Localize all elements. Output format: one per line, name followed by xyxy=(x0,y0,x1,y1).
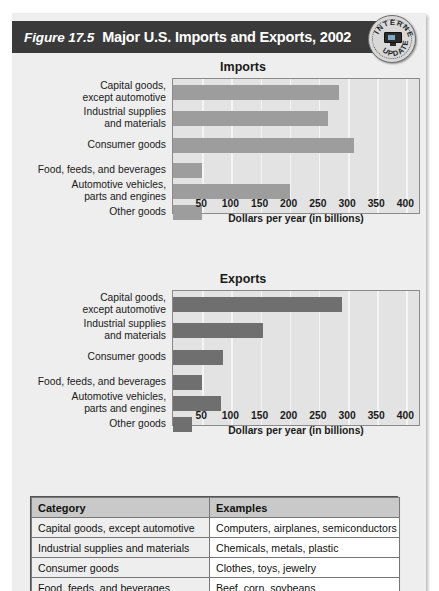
imports-chart: Imports Capital goods, except automotive… xyxy=(12,60,426,260)
table-cell-examples: Beef, corn, soybeans xyxy=(210,578,400,591)
axis-tick: 400 xyxy=(397,410,414,421)
axis-tick: 250 xyxy=(309,410,326,421)
table-cell-category: Consumer goods xyxy=(32,558,210,578)
category-label: Capital goods, except automotive xyxy=(20,80,166,103)
bar xyxy=(173,396,221,411)
category-label: Consumer goods xyxy=(20,351,166,362)
axis-tick: 150 xyxy=(251,410,268,421)
axis-tick: 300 xyxy=(338,198,355,209)
figure-title-bar: Figure 17.5 Major U.S. Imports and Expor… xyxy=(12,21,408,53)
exports-category-labels: Capital goods, except automotiveIndustri… xyxy=(20,290,170,426)
bar xyxy=(173,375,202,390)
figure-number: Figure 17.5 xyxy=(24,30,94,45)
axis-tick: 100 xyxy=(222,198,239,209)
figure-title: Major U.S. Imports and Exports, 2002 xyxy=(102,29,351,45)
gridline xyxy=(348,291,350,425)
axis-tick: 50 xyxy=(195,410,206,421)
gridline xyxy=(406,79,408,213)
table-column-header: Examples xyxy=(210,498,400,518)
computer-monitor-icon xyxy=(384,32,402,46)
figure-page: Figure 17.5 Major U.S. Imports and Expor… xyxy=(0,0,439,591)
category-label: Consumer goods xyxy=(20,139,166,150)
category-label: Other goods xyxy=(20,206,166,217)
examples-table: CategoryExamples Capital goods, except a… xyxy=(31,497,400,591)
gridline xyxy=(406,291,408,425)
exports-plot-area xyxy=(172,290,420,426)
table-cell-examples: Chemicals, metals, plastic xyxy=(210,538,400,558)
gridline xyxy=(377,291,379,425)
axis-tick: 350 xyxy=(368,410,385,421)
axis-tick: 300 xyxy=(338,410,355,421)
axis-tick: 400 xyxy=(397,198,414,209)
axis-tick: 150 xyxy=(251,198,268,209)
table-header-row: CategoryExamples xyxy=(32,498,400,518)
axis-tick: 250 xyxy=(309,198,326,209)
examples-table-wrapper: CategoryExamples Capital goods, except a… xyxy=(30,496,398,591)
table-row: Industrial supplies and materialsChemica… xyxy=(32,538,400,558)
exports-chart: Exports Capital goods, except automotive… xyxy=(12,272,426,472)
axis-tick: 50 xyxy=(195,198,206,209)
imports-x-axis: 50100150200250300350400 xyxy=(172,198,420,214)
bar xyxy=(173,184,290,199)
category-label: Food, feeds, and beverages xyxy=(20,164,166,175)
table-row: Capital goods, except automotiveComputer… xyxy=(32,518,400,538)
category-label: Automotive vehicles, parts and engines xyxy=(20,391,166,414)
table-row: Food, feeds, and beveragesBeef, corn, so… xyxy=(32,578,400,591)
bar xyxy=(173,138,354,153)
axis-tick: 200 xyxy=(280,410,297,421)
category-label: Food, feeds, and beverages xyxy=(20,376,166,387)
table-cell-category: Industrial supplies and materials xyxy=(32,538,210,558)
table-row: Consumer goodsClothes, toys, jewelry xyxy=(32,558,400,578)
category-label: Industrial supplies and materials xyxy=(20,318,166,341)
category-label: Industrial supplies and materials xyxy=(20,106,166,129)
imports-category-labels: Capital goods, except automotiveIndustri… xyxy=(20,78,170,214)
category-label: Capital goods, except automotive xyxy=(20,292,166,315)
table-cell-examples: Clothes, toys, jewelry xyxy=(210,558,400,578)
axis-tick: 200 xyxy=(280,198,297,209)
imports-axis-title: Dollars per year (in billions) xyxy=(172,213,420,224)
axis-tick: 350 xyxy=(368,198,385,209)
bar xyxy=(173,323,263,338)
axis-tick: 100 xyxy=(222,410,239,421)
imports-chart-title: Imports xyxy=(60,60,426,74)
bar xyxy=(173,85,339,100)
bar xyxy=(173,111,328,126)
gridline xyxy=(377,79,379,213)
category-label: Automotive vehicles, parts and engines xyxy=(20,179,166,202)
exports-axis-title: Dollars per year (in billions) xyxy=(172,425,420,436)
imports-plot-area xyxy=(172,78,420,214)
table-cell-category: Capital goods, except automotive xyxy=(32,518,210,538)
exports-chart-title: Exports xyxy=(60,272,426,286)
exports-x-axis: 50100150200250300350400 xyxy=(172,410,420,426)
bar xyxy=(173,350,223,365)
bar xyxy=(173,297,342,312)
bar xyxy=(173,163,202,178)
table-column-header: Category xyxy=(32,498,210,518)
table-cell-examples: Computers, airplanes, semiconductors xyxy=(210,518,400,538)
table-cell-category: Food, feeds, and beverages xyxy=(32,578,210,591)
category-label: Other goods xyxy=(20,418,166,429)
internet-update-seal: INTERNET UPDATE xyxy=(368,15,416,63)
